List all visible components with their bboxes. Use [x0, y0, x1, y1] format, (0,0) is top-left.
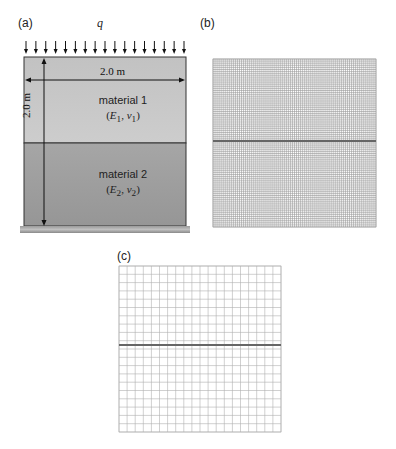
panel-c-coarse-mesh [0, 0, 396, 449]
